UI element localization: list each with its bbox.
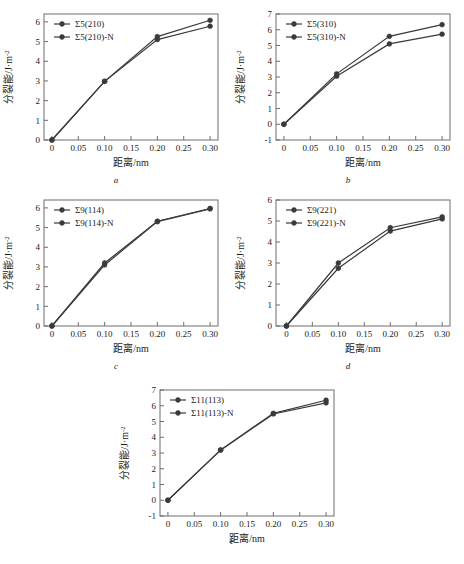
- data-point: [208, 18, 213, 23]
- data-point: [50, 138, 55, 143]
- x-tick-label: 0.20: [381, 143, 397, 153]
- data-point: [387, 42, 392, 47]
- x-tick-label: 0.30: [434, 143, 450, 153]
- y-tick-label: 4: [36, 242, 41, 252]
- data-point: [440, 22, 445, 27]
- y-tick-label: 1: [36, 302, 41, 312]
- y-tick-label: 5: [36, 223, 41, 233]
- y-tick-label: 6: [268, 25, 273, 35]
- x-tick-label: 0.15: [123, 329, 139, 339]
- x-tick-label: 0.05: [304, 329, 320, 339]
- data-point: [388, 225, 393, 230]
- legend-label-1: Σ11(113)-N: [191, 408, 234, 418]
- x-axis-title: 距离/nm: [113, 156, 149, 168]
- y-tick-label: 2: [36, 282, 41, 292]
- y-tick-label: 1: [152, 480, 157, 490]
- data-point: [102, 79, 107, 84]
- legend-label-0: Σ11(113): [191, 395, 224, 405]
- x-tick-label: 0.10: [329, 143, 345, 153]
- y-tick-label: 0: [268, 119, 273, 129]
- panel-caption-e: e: [116, 536, 348, 546]
- y-tick-label: 1: [268, 300, 273, 310]
- y-tick-label: 2: [152, 464, 157, 474]
- x-tick-label: 0.10: [97, 329, 113, 339]
- plot-a: 012345600.050.100.150.200.250.30Σ5(210)Σ…: [0, 0, 232, 190]
- x-tick-label: 0.15: [239, 519, 255, 529]
- legend-label-0: Σ9(221): [307, 205, 336, 215]
- y-tick-label: 2: [268, 279, 273, 289]
- x-axis-title: 距离/nm: [345, 342, 381, 354]
- y-axis-title-text: 分裂能/J·m-2: [2, 50, 14, 104]
- legend-marker-1: [60, 35, 65, 40]
- x-tick-label: 0.05: [70, 329, 86, 339]
- y-tick-label: 5: [268, 216, 273, 226]
- y-tick-label: 4: [268, 237, 273, 247]
- panel-caption-b: b: [232, 175, 464, 185]
- plot-b: -10123456700.050.100.150.200.250.30Σ5(31…: [232, 0, 464, 190]
- chart-svg-c: 012345600.050.100.150.200.250.30Σ9(114)Σ…: [0, 186, 232, 372]
- chart-svg-b: -10123456700.050.100.150.200.250.30Σ5(31…: [232, 0, 464, 186]
- y-tick-label: 0: [152, 495, 157, 505]
- panel-b: -10123456700.050.100.150.200.250.30Σ5(31…: [232, 0, 464, 186]
- x-tick-label: 0: [282, 143, 287, 153]
- y-tick-label: 1: [36, 116, 41, 126]
- legend-label-0: Σ9(114): [75, 205, 104, 215]
- series-line-0: [286, 219, 442, 326]
- y-tick-label: -1: [149, 511, 157, 521]
- data-point: [166, 498, 171, 503]
- series-line-0: [52, 26, 210, 140]
- data-point: [336, 266, 341, 271]
- data-point: [440, 214, 445, 219]
- legend-marker-0: [60, 208, 65, 213]
- y-tick-label: 6: [36, 203, 41, 213]
- chart-svg-e: -10123456700.050.100.150.200.250.30Σ11(1…: [116, 376, 348, 562]
- plot-d: 012345600.050.100.150.200.250.30Σ9(221)Σ…: [232, 186, 464, 376]
- panel-caption-c: c: [0, 361, 232, 371]
- y-axis-title-text: 分裂能/J·m-2: [2, 236, 14, 290]
- y-tick-label: 3: [36, 262, 41, 272]
- x-tick-label: 0.15: [356, 329, 372, 339]
- x-tick-label: 0: [284, 329, 289, 339]
- data-point: [334, 71, 339, 76]
- data-point: [440, 32, 445, 37]
- y-axis-title-text: 分裂能/J·m-2: [118, 426, 130, 480]
- legend-marker-0: [292, 22, 297, 27]
- panel-d: 012345600.050.100.150.200.250.30Σ9(221)Σ…: [232, 186, 464, 372]
- y-tick-label: 3: [268, 72, 273, 82]
- x-tick-label: 0.30: [202, 143, 218, 153]
- legend-label-0: Σ5(210): [75, 19, 104, 29]
- plot-frame: [44, 200, 218, 326]
- plot-frame: [44, 14, 218, 140]
- y-tick-label: 4: [36, 56, 41, 66]
- plot-frame: [160, 390, 334, 516]
- series-line-1: [286, 217, 442, 326]
- x-tick-label: 0: [166, 519, 171, 529]
- legend-label-1: Σ5(310)-N: [307, 32, 346, 42]
- y-axis-title-text: 分裂能/J·m-2: [234, 50, 246, 104]
- y-tick-label: 7: [152, 385, 157, 395]
- x-axis-title: 距离/nm: [345, 156, 381, 168]
- x-tick-label: 0.25: [292, 519, 308, 529]
- legend-label-1: Σ5(210)-N: [75, 32, 114, 42]
- x-tick-label: 0.25: [408, 329, 424, 339]
- legend-marker-1: [292, 35, 297, 40]
- x-axis-title: 距离/nm: [113, 342, 149, 354]
- y-axis-title-text: 分裂能/J·m-2: [234, 236, 246, 290]
- x-tick-label: 0: [50, 143, 55, 153]
- y-tick-label: 4: [268, 56, 273, 66]
- x-tick-label: 0.30: [202, 329, 218, 339]
- x-tick-label: 0.05: [186, 519, 202, 529]
- y-axis-title: 分裂能/J·m-2: [234, 236, 246, 290]
- y-tick-label: 0: [36, 135, 41, 145]
- y-tick-label: 2: [268, 88, 273, 98]
- legend-label-0: Σ5(310): [307, 19, 336, 29]
- y-tick-label: 5: [152, 417, 157, 427]
- data-point: [284, 324, 289, 329]
- legend-marker-1: [292, 221, 297, 226]
- plot-c: 012345600.050.100.150.200.250.30Σ9(114)Σ…: [0, 186, 232, 376]
- y-tick-label: 6: [36, 17, 41, 27]
- data-point: [218, 447, 223, 452]
- legend-label-1: Σ9(114)-N: [75, 218, 114, 228]
- chart-svg-a: 012345600.050.100.150.200.250.30Σ5(210)Σ…: [0, 0, 232, 186]
- x-tick-label: 0.15: [123, 143, 139, 153]
